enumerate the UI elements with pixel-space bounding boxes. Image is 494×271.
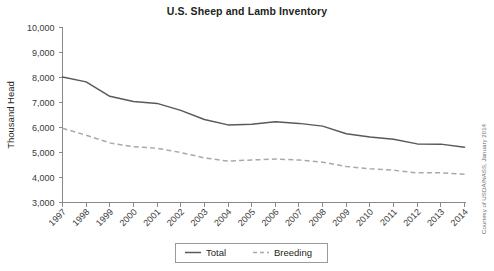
x-axis-tick-label: 2007 (283, 207, 304, 228)
credit-text: Courtesy of USDA/NASS, January 2014 (480, 123, 487, 234)
x-axis-tick-label: 2011 (378, 207, 399, 228)
chart-legend: TotalBreeding (175, 243, 327, 262)
y-axis-tick-label: 3,000 (32, 198, 55, 208)
x-axis-tick-label: 2012 (401, 207, 422, 228)
x-axis-tick-label: 2014 (449, 207, 470, 228)
data-series-group (63, 77, 465, 174)
y-axis-tick-label: 10,000 (27, 23, 55, 33)
x-axis-tick-label: 2003 (189, 207, 210, 228)
line-chart-plot: 3,0004,0005,0006,0007,0008,0009,00010,00… (0, 0, 494, 271)
y-axis-tick-label: 5,000 (32, 148, 55, 158)
x-axis: 1997199819992000200120022003200420052006… (47, 203, 470, 229)
x-axis-tick-label: 2008 (307, 207, 328, 228)
y-axis-tick-label: 4,000 (32, 173, 55, 183)
legend-label-breeding: Breeding (274, 247, 312, 258)
x-axis-tick-label: 2005 (236, 207, 257, 228)
x-axis-tick-label: 2013 (425, 207, 446, 228)
x-axis-tick-label: 2009 (330, 207, 351, 228)
series-line-total (63, 77, 465, 147)
x-axis-tick-label: 2004 (212, 207, 233, 228)
source-credit: Courtesy of USDA/NASS, January 2014 (480, 123, 487, 234)
x-axis-tick-label: 1999 (94, 207, 115, 228)
x-axis-tick-label: 1998 (70, 207, 91, 228)
x-axis-tick-label: 1997 (47, 207, 68, 228)
x-axis-tick-label: 2000 (118, 207, 139, 228)
x-axis-tick-label: 2010 (354, 207, 375, 228)
y-axis-tick-label: 9,000 (32, 48, 55, 58)
y-axis-title: Thousand Head (5, 81, 16, 149)
series-line-breeding (63, 128, 465, 174)
y-axis-tick-label: 6,000 (32, 123, 55, 133)
x-axis-tick-label: 2002 (165, 207, 186, 228)
y-axis-tick-label: 8,000 (32, 73, 55, 83)
x-axis-tick-label: 2006 (260, 207, 281, 228)
y-axis: 3,0004,0005,0006,0007,0008,0009,00010,00… (5, 23, 63, 208)
chart-container: U.S. Sheep and Lamb Inventory 3,0004,000… (0, 0, 494, 271)
legend-label-total: Total (206, 247, 226, 258)
x-axis-tick-label: 2001 (141, 207, 162, 228)
y-axis-tick-label: 7,000 (32, 98, 55, 108)
